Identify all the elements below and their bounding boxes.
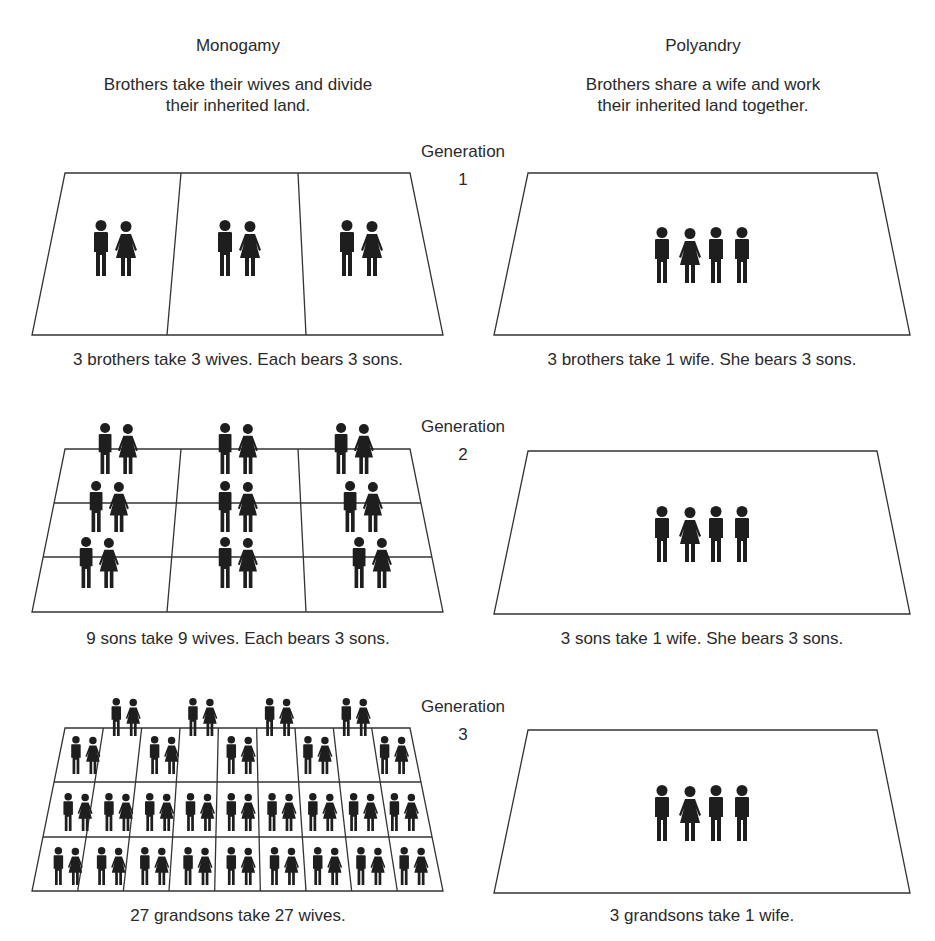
gen1-polyandry-caption: 3 brothers take 1 wife. She bears 3 sons…	[477, 350, 927, 370]
gen2-polyandry-land	[494, 451, 910, 614]
diagram-stage	[0, 0, 935, 941]
gen1-monogamy-caption: 3 brothers take 3 wives. Each bears 3 so…	[13, 350, 463, 370]
gen2-polyandry-caption: 3 sons take 1 wife. She bears 3 sons.	[477, 629, 927, 649]
gen3-polyandry-caption: 3 grandsons take 1 wife.	[477, 906, 927, 926]
gen1-polyandry-land	[494, 173, 910, 335]
gen1-monogamy-land	[32, 173, 443, 335]
gen3-monogamy-caption: 27 grandsons take 27 wives.	[13, 906, 463, 926]
gen3-polyandry-land	[494, 730, 910, 893]
gen2-monogamy-caption: 9 sons take 9 wives. Each bears 3 sons.	[13, 629, 463, 649]
